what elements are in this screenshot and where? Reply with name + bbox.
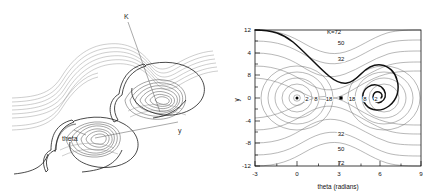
x-tick-9: 9 (419, 170, 423, 177)
contour-label-32-upper: 32 (338, 56, 345, 62)
surface-mesh-panel: K y theta (0, 0, 221, 195)
contour-plot-panel: K=72 50 32 32 50 72 2 8 18 18 8 2 (221, 0, 442, 195)
y-axis-title: y (233, 98, 241, 102)
contour-label-50-upper: 50 (338, 40, 345, 46)
y-tick-labels: 12 8 0 4 -4 -8 -12 (242, 26, 252, 169)
y-tick-12: 12 (244, 26, 251, 33)
y-tick-minus8: -8 (245, 139, 251, 146)
surface-mesh-svg: K y theta (0, 0, 221, 195)
axis-label-K: K (124, 13, 129, 20)
fixed-point-saddle (339, 96, 342, 99)
mesh-waves-back (12, 44, 218, 118)
y-tick-8: 8 (248, 71, 252, 78)
x-axis-title: theta (radians) (317, 183, 358, 191)
x-tick-3: 3 (337, 170, 341, 177)
fixed-point-center-left (296, 97, 299, 100)
axis-label-theta: theta (62, 135, 78, 142)
contour-label-8-right: 8 (363, 96, 367, 102)
contour-plot-svg: K=72 50 32 32 50 72 2 8 18 18 8 2 (221, 0, 442, 195)
contour-label-18-left: 18 (326, 96, 333, 102)
x-tick-0: 0 (295, 170, 299, 177)
contour-label-18-right: 18 (349, 96, 356, 102)
mesh-well-left (44, 117, 139, 172)
contour-label-32-lower: 32 (338, 131, 345, 137)
contour-label-2-left: 2 (305, 96, 309, 102)
x-tick-minus3: -3 (252, 170, 258, 177)
x-tick-labels: -3 0 3 6 9 (252, 170, 423, 177)
y-tick-minus4: -4 (245, 117, 251, 124)
y-tick-minus12: -12 (242, 162, 252, 169)
axis-label-y: y (178, 127, 182, 135)
figure-root: K y theta (0, 0, 442, 195)
y-tick-0: 0 (248, 94, 252, 101)
contour-label-2-right: 2 (374, 96, 378, 102)
mesh-waves-front (12, 73, 186, 174)
x-tick-6: 6 (378, 170, 382, 177)
y-tick-4: 4 (248, 49, 252, 56)
contour-label-50-lower: 50 (338, 146, 345, 152)
